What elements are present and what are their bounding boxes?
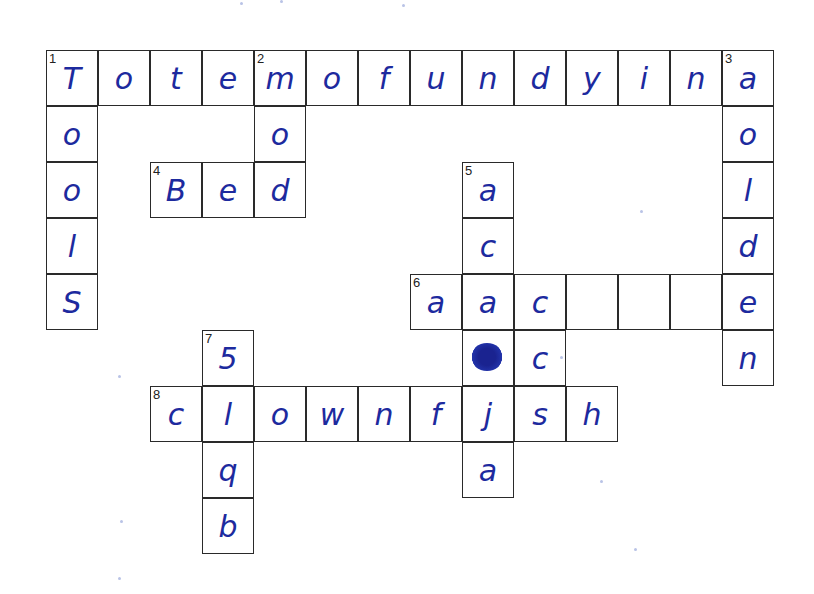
- crossword-cell[interactable]: [566, 274, 618, 330]
- crossword-cell[interactable]: e: [202, 162, 254, 218]
- crossword-cell[interactable]: o: [98, 50, 150, 106]
- handwritten-letter: f: [359, 57, 409, 101]
- crossword-cell[interactable]: l: [722, 162, 774, 218]
- paper-speck: [600, 480, 603, 483]
- crossword-cell[interactable]: l: [202, 386, 254, 442]
- crossword-cell[interactable]: h: [566, 386, 618, 442]
- handwritten-letter: b: [203, 505, 253, 549]
- handwritten-letter: l: [203, 393, 253, 437]
- crossword-cell[interactable]: n: [358, 386, 410, 442]
- crossword-cell[interactable]: o: [254, 386, 306, 442]
- paper-speck: [118, 577, 121, 580]
- crossword-cell[interactable]: q: [202, 442, 254, 498]
- crossword-cell[interactable]: S: [46, 274, 98, 330]
- crossword-cell[interactable]: f: [410, 386, 462, 442]
- handwritten-letter: c: [463, 225, 513, 269]
- crossword-cell[interactable]: 2m: [254, 50, 306, 106]
- crossword-grid: 1Tote2mofundyin3aoooo4Bed5allcdS6aace75c…: [0, 0, 814, 594]
- handwritten-letter: q: [203, 449, 253, 493]
- crossword-cell[interactable]: 4B: [150, 162, 202, 218]
- handwritten-letter: S: [47, 281, 97, 325]
- handwritten-letter: e: [203, 57, 253, 101]
- crossword-cell[interactable]: u: [410, 50, 462, 106]
- handwritten-letter: n: [463, 57, 513, 101]
- crossword-cell[interactable]: e: [202, 50, 254, 106]
- handwritten-letter: h: [567, 393, 617, 437]
- crossword-cell[interactable]: o: [306, 50, 358, 106]
- crossword-cell[interactable]: 5a: [462, 162, 514, 218]
- crossword-cell[interactable]: 1T: [46, 50, 98, 106]
- crossword-cell[interactable]: d: [722, 218, 774, 274]
- crossword-cell[interactable]: o: [46, 162, 98, 218]
- handwritten-letter: l: [47, 225, 97, 269]
- handwritten-letter: a: [723, 57, 773, 101]
- crossword-cell[interactable]: c: [462, 218, 514, 274]
- crossword-cell[interactable]: f: [358, 50, 410, 106]
- crossword-cell[interactable]: l: [46, 218, 98, 274]
- handwritten-letter: c: [151, 393, 201, 437]
- crossword-cell[interactable]: a: [462, 442, 514, 498]
- handwritten-letter: l: [723, 169, 773, 213]
- paper-speck: [640, 210, 643, 213]
- handwritten-letter: e: [723, 281, 773, 325]
- handwritten-letter: y: [567, 57, 617, 101]
- crossword-cell[interactable]: y: [566, 50, 618, 106]
- crossword-cell[interactable]: s: [514, 386, 566, 442]
- handwritten-letter: o: [307, 57, 357, 101]
- handwritten-letter: n: [723, 337, 773, 381]
- handwritten-letter: o: [47, 113, 97, 157]
- crossword-cell[interactable]: d: [254, 162, 306, 218]
- crossword-cell[interactable]: c: [514, 330, 566, 386]
- paper-speck: [118, 375, 121, 378]
- handwritten-letter: o: [255, 113, 305, 157]
- paper-speck: [240, 2, 243, 5]
- handwritten-letter: 5: [203, 337, 253, 381]
- crossword-cell[interactable]: j: [462, 386, 514, 442]
- crossword-cell[interactable]: [670, 274, 722, 330]
- crossword-cell[interactable]: 8c: [150, 386, 202, 442]
- paper-speck: [402, 4, 405, 7]
- crossword-cell[interactable]: [618, 274, 670, 330]
- paper-speck: [560, 356, 563, 359]
- handwritten-letter: d: [515, 57, 565, 101]
- crossword-cell[interactable]: a: [462, 274, 514, 330]
- crossword-cell[interactable]: 75: [202, 330, 254, 386]
- crossword-cell[interactable]: t: [150, 50, 202, 106]
- crossword-cell[interactable]: e: [722, 274, 774, 330]
- crossword-cell[interactable]: n: [462, 50, 514, 106]
- handwritten-letter: o: [99, 57, 149, 101]
- crossword-cell[interactable]: 3a: [722, 50, 774, 106]
- crossword-cell[interactable]: i: [618, 50, 670, 106]
- handwritten-letter: o: [255, 393, 305, 437]
- handwritten-letter: c: [515, 281, 565, 325]
- handwritten-letter: n: [359, 393, 409, 437]
- crossword-cell[interactable]: c: [514, 274, 566, 330]
- handwritten-letter: o: [47, 169, 97, 213]
- handwritten-letter: n: [671, 57, 721, 101]
- handwritten-letter: d: [255, 169, 305, 213]
- handwritten-letter: a: [463, 281, 513, 325]
- handwritten-letter: w: [307, 393, 357, 437]
- crossword-cell[interactable]: o: [46, 106, 98, 162]
- crossword-cell[interactable]: o: [722, 106, 774, 162]
- crossword-cell[interactable]: n: [670, 50, 722, 106]
- crossword-cell[interactable]: o: [254, 106, 306, 162]
- handwritten-letter: T: [47, 57, 97, 101]
- handwritten-letter: m: [255, 57, 305, 101]
- handwritten-letter: s: [515, 393, 565, 437]
- crossword-cell[interactable]: 6a: [410, 274, 462, 330]
- crossword-cell[interactable]: [462, 330, 514, 386]
- crossword-cell[interactable]: d: [514, 50, 566, 106]
- paper-speck: [280, 0, 283, 3]
- handwritten-letter: a: [463, 169, 513, 213]
- crossword-cell[interactable]: w: [306, 386, 358, 442]
- crossword-cell[interactable]: n: [722, 330, 774, 386]
- crossword-cell[interactable]: b: [202, 498, 254, 554]
- handwritten-letter: f: [411, 393, 461, 437]
- paper-speck: [634, 548, 637, 551]
- handwritten-letter: d: [723, 225, 773, 269]
- scribbled-out-letter: [471, 343, 503, 371]
- handwritten-letter: j: [463, 393, 513, 437]
- handwritten-letter: a: [463, 449, 513, 493]
- handwritten-letter: c: [515, 337, 565, 381]
